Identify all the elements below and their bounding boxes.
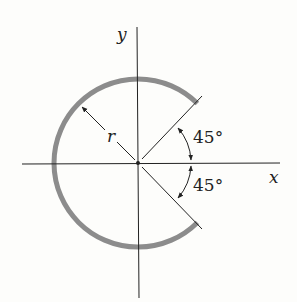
lower-angle-arc xyxy=(178,166,191,198)
x-axis xyxy=(22,163,280,164)
diagram-canvas: y x r 45° 45° xyxy=(0,0,297,302)
upper-angle-arc xyxy=(178,128,191,160)
lower-angle-label: 45° xyxy=(193,175,223,195)
circular-arc-diagram: y x r 45° 45° xyxy=(0,0,297,302)
center-point xyxy=(136,161,140,165)
radius-label: r xyxy=(107,126,116,146)
y-axis-label: y xyxy=(116,24,127,44)
radius-arrow xyxy=(82,107,105,130)
upper-angle-label: 45° xyxy=(193,127,223,147)
radius-line xyxy=(117,142,135,160)
x-axis-label: x xyxy=(269,167,279,187)
